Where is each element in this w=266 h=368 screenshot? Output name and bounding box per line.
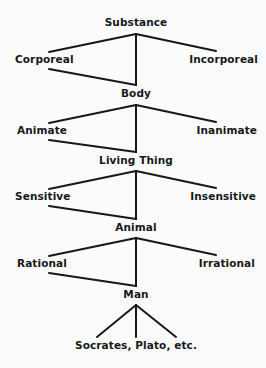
individuals-label: Socrates, Plato, etc. (73, 339, 199, 351)
differentia-insensitive: Insensitive (188, 190, 258, 202)
line-man-to-individual-right (136, 305, 176, 337)
species-man: Man (121, 288, 150, 300)
differentia-inanimate: Inanimate (194, 124, 259, 136)
line-corporeal-to-body (49, 69, 136, 85)
porphyrian-tree-diagram: Substance Corporeal Incorporeal Body Ani… (0, 0, 266, 368)
line-living-thing-to-insensitive (136, 171, 216, 188)
line-body-to-animate (49, 105, 136, 123)
line-living-thing-to-sensitive (49, 171, 136, 189)
genus-living-thing: Living Thing (97, 154, 175, 166)
genus-animal: Animal (113, 221, 158, 233)
line-rational-to-man (49, 273, 136, 286)
genus-substance: Substance (103, 16, 170, 28)
differentia-irrational: Irrational (197, 257, 257, 269)
differentia-animate: Animate (15, 124, 69, 136)
line-substance-to-corporeal (49, 34, 136, 52)
line-animate-to-living-thing (49, 140, 136, 152)
line-body-to-inanimate (136, 105, 216, 122)
line-animal-to-rational (49, 238, 136, 256)
differentia-incorporeal: Incorporeal (187, 53, 260, 65)
differentia-sensitive: Sensitive (13, 190, 73, 202)
line-man-to-individual-left (97, 305, 136, 337)
differentia-rational: Rational (15, 257, 69, 269)
line-substance-to-incorporeal (136, 34, 216, 51)
line-sensitive-to-animal (49, 206, 136, 219)
differentia-corporeal: Corporeal (13, 53, 76, 65)
line-animal-to-irrational (136, 238, 216, 255)
genus-body: Body (119, 87, 153, 99)
